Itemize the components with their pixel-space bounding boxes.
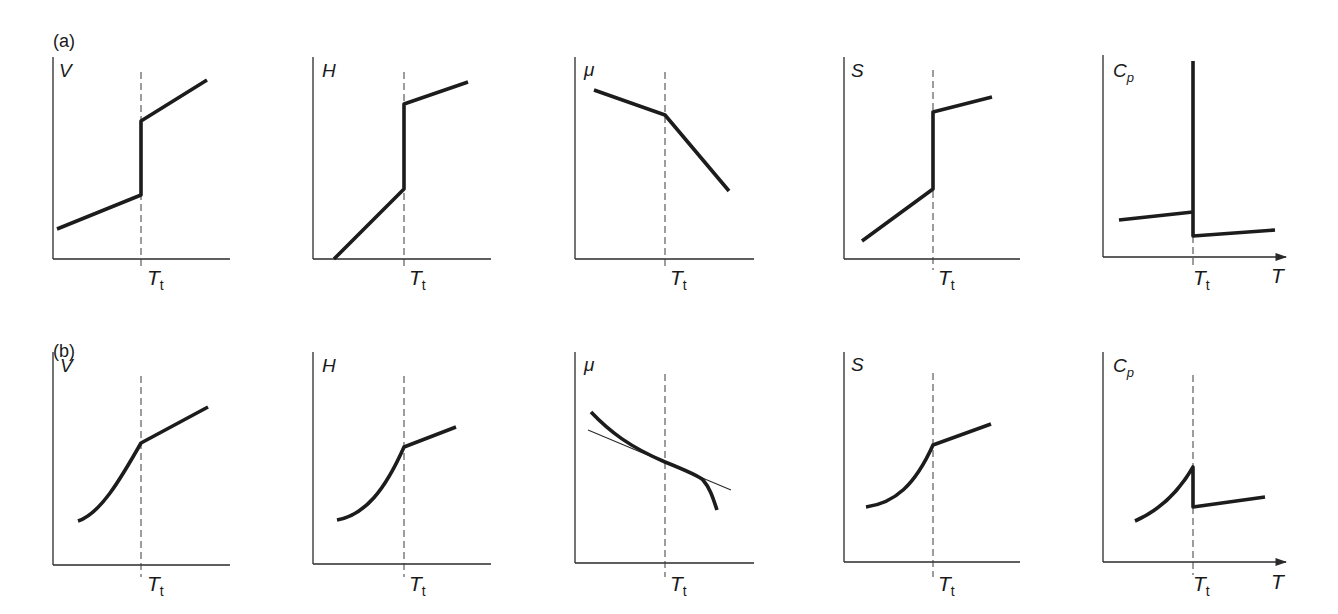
tt-label: Tt (670, 266, 687, 293)
volume-curve (78, 407, 208, 521)
panel-a-heat-capacity: Cp Tt T (1103, 55, 1286, 293)
tt-label: Tt (409, 572, 426, 599)
panel-a-volume: V Tt (53, 57, 230, 293)
y-axis-label: H (322, 60, 336, 81)
tt-label: Tt (147, 572, 164, 599)
y-axis-label: S (851, 354, 864, 375)
tt-label: Tt (1193, 266, 1210, 293)
tt-label: Tt (938, 266, 955, 293)
tt-label: Tt (670, 572, 687, 599)
panel-a-chemical-potential: μ Tt (575, 57, 754, 293)
heat-capacity-low (1119, 212, 1193, 220)
entropy-curve (862, 97, 992, 241)
row-label-a: (a) (53, 31, 75, 51)
y-axis-label: V (59, 60, 74, 81)
enthalpy-curve (334, 82, 468, 259)
panel-b-enthalpy: H Tt (313, 352, 491, 599)
panel-b-entropy: S Tt (844, 352, 1020, 599)
panel-b-heat-capacity: Cp Tt T (1103, 352, 1286, 599)
y-axis-label: Cp (1113, 60, 1134, 85)
heat-capacity-curve (1135, 467, 1265, 521)
heat-capacity-spike (1193, 61, 1275, 236)
x-axis-label: T (1271, 570, 1286, 593)
panel-b-chemical-potential: μ Tt (575, 352, 754, 599)
chemical-potential-curve (594, 90, 729, 191)
tt-label: Tt (1193, 572, 1210, 599)
panel-a-enthalpy: H Tt (313, 57, 491, 293)
y-axis-label: Cp (1113, 355, 1134, 380)
tt-label: Tt (938, 572, 955, 599)
y-axis-label: μ (583, 59, 595, 80)
enthalpy-curve (337, 427, 456, 520)
panel-b-volume: V Tt (53, 352, 230, 599)
x-axis-label: T (1271, 264, 1286, 287)
chemical-potential-curve (591, 412, 717, 510)
y-axis-label: μ (583, 354, 595, 375)
entropy-curve (866, 424, 991, 507)
y-axis-label: H (322, 355, 336, 376)
tt-label: Tt (147, 266, 164, 293)
volume-curve (57, 80, 207, 229)
phase-transition-figure: (a) (b) V Tt H Tt μ Tt S Tt (0, 0, 1338, 614)
panel-a-entropy: S Tt (844, 57, 1020, 293)
y-axis-label: S (851, 60, 864, 81)
tt-label: Tt (409, 266, 426, 293)
